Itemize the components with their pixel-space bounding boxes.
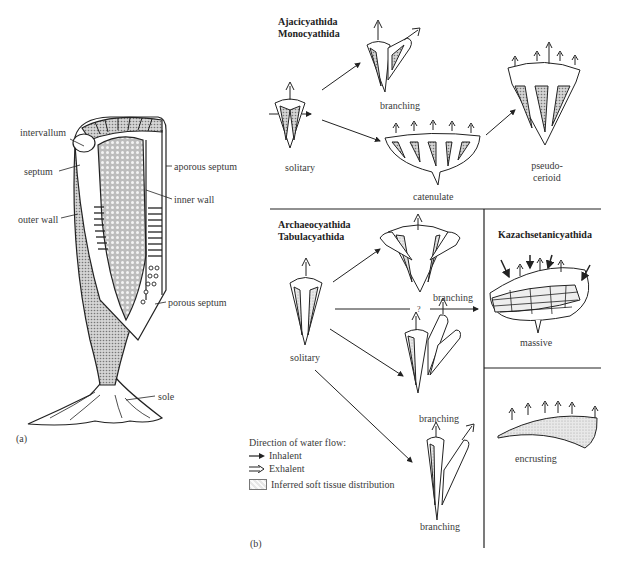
label-pseudocerioid-line1: pseudo- bbox=[522, 160, 572, 171]
label-outer-wall: outer wall bbox=[18, 214, 58, 225]
group2-title-line2: Tabulacyathida bbox=[278, 231, 344, 243]
label-encrusting: encrusting bbox=[515, 453, 557, 464]
legend-inhalent: Inhalent bbox=[249, 449, 395, 462]
label-uncertain: ? bbox=[417, 304, 421, 315]
group3-illustrations bbox=[490, 255, 598, 448]
label-branching-2c: branching bbox=[420, 521, 460, 532]
label-branching-1: branching bbox=[380, 100, 420, 111]
exhalent-arrow-icon bbox=[249, 465, 265, 473]
legend-inhalent-label: Inhalent bbox=[269, 449, 302, 462]
group2-title-line1: Archaeocyathida bbox=[278, 219, 351, 231]
label-branching-2a: branching bbox=[433, 292, 473, 303]
soft-tissue-swatch-icon bbox=[249, 479, 267, 490]
label-pseudocerioid-line2: cerioid bbox=[522, 172, 572, 183]
label-catenulate: catenulate bbox=[413, 191, 454, 202]
legend-soft-tissue: Inferred soft tissue distribution bbox=[249, 478, 395, 491]
legend-heading: Direction of water flow: bbox=[249, 436, 395, 449]
inhalent-arrow-icon bbox=[249, 452, 265, 460]
group3-title: Kazachsetanicyathida bbox=[498, 229, 592, 241]
legend-exhalent: Exhalent bbox=[249, 462, 395, 475]
legend-soft-tissue-label: Inferred soft tissue distribution bbox=[271, 478, 395, 491]
legend: Direction of water flow: Inhalent Exhale… bbox=[249, 436, 395, 491]
archaeocyath-cup-illustration bbox=[28, 117, 172, 425]
panel-a-tag: (a) bbox=[16, 433, 27, 444]
label-sole: sole bbox=[158, 391, 174, 402]
label-solitary-2: solitary bbox=[290, 352, 320, 363]
label-aporous-septum: aporous septum bbox=[174, 161, 237, 172]
label-porous-septum: porous septum bbox=[168, 297, 227, 308]
label-massive: massive bbox=[520, 337, 552, 348]
label-septum: septum bbox=[24, 166, 53, 177]
panel-b-tag: (b) bbox=[250, 538, 262, 549]
label-branching-2b: branching bbox=[419, 413, 459, 424]
label-solitary-1: solitary bbox=[285, 162, 315, 173]
group1-title-line2: Monocyathida bbox=[278, 28, 340, 40]
label-inner-wall: inner wall bbox=[174, 194, 214, 205]
legend-exhalent-label: Exhalent bbox=[269, 462, 305, 475]
label-intervallum: intervallum bbox=[20, 127, 66, 138]
group1-title-line1: Ajacicyathida bbox=[278, 16, 337, 28]
